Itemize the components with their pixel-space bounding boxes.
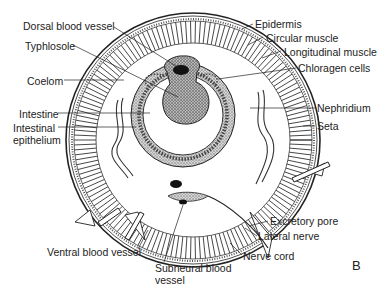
label-intestinal-epithelium-line2: epithelium	[13, 134, 61, 146]
label-subneural-blood-vessel-line2: vessel	[155, 274, 185, 286]
label-nephridium: Nephridium	[317, 102, 371, 114]
label-longitudinal-muscle: Longitudinal muscle	[284, 46, 377, 58]
label-typhlosole: Typhlosole	[25, 40, 75, 52]
label-lateral-nerve: Lateral nerve	[258, 230, 319, 242]
subneural-blood-vessel	[179, 200, 187, 205]
ventral-blood-vessel	[170, 180, 182, 188]
label-epidermis: Epidermis	[255, 18, 302, 30]
label-dorsal-blood-vessel: Dorsal blood vessel	[23, 20, 115, 32]
label-intestinal-epithelium-line1: Intestinal	[13, 122, 55, 134]
label-chloragen-cells: Chloragen cells	[298, 62, 370, 74]
label-circular-muscle: Circular muscle	[266, 32, 338, 44]
label-excretory-pore: Excretory pore	[270, 215, 338, 227]
label-intestine: Intestine	[19, 108, 59, 120]
panel-letter: B	[352, 260, 361, 272]
earthworm-cross-section-diagram: Dorsal blood vessel Typhlosole Coelom In…	[0, 0, 387, 286]
dorsal-blood-vessel	[173, 65, 189, 75]
label-nerve-cord: Nerve cord	[243, 250, 294, 262]
label-ventral-blood-vessel: Ventral blood vessel	[47, 246, 141, 258]
label-subneural-blood-vessel-line1: Subneural blood	[155, 262, 231, 274]
label-coelom: Coelom	[27, 75, 63, 87]
label-seta: Seta	[317, 120, 339, 132]
